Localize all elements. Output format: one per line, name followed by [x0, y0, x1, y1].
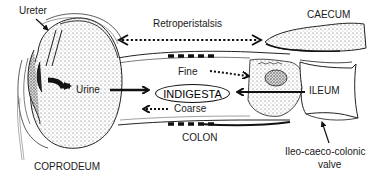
coprodeum: [30, 14, 122, 149]
caecum: [265, 23, 366, 51]
retroperistalsis-arrow: [119, 35, 261, 45]
indigesta-text: INDIGESTA: [163, 88, 221, 100]
urine-label: Urine: [76, 85, 100, 95]
colon-label: COLON: [182, 133, 218, 143]
valve-label-line1: Ileo-caeco-colonic: [285, 147, 366, 157]
valve-pointer-arrow: [322, 122, 329, 143]
hindgut-diagram: Ureter Retroperistalsis CAECUM Urine Fin…: [0, 0, 383, 177]
retroperistalsis-label: Retroperistalsis: [153, 19, 222, 29]
ileum-label: ILEUM: [309, 86, 340, 96]
ureter-label: Ureter: [19, 6, 47, 16]
caecum-label: CAECUM: [307, 10, 350, 20]
ureter-pointer-arrow: [36, 19, 48, 30]
coprodeum-label: COPRODEUM: [34, 162, 100, 172]
indigesta-label: INDIGESTA: [155, 84, 230, 103]
caecal-chamber: [248, 59, 303, 116]
valve-label-line2: valve: [318, 160, 341, 170]
fine-arrow: [210, 71, 248, 76]
coarse-label: Coarse: [174, 104, 206, 114]
fine-label: Fine: [178, 67, 197, 77]
